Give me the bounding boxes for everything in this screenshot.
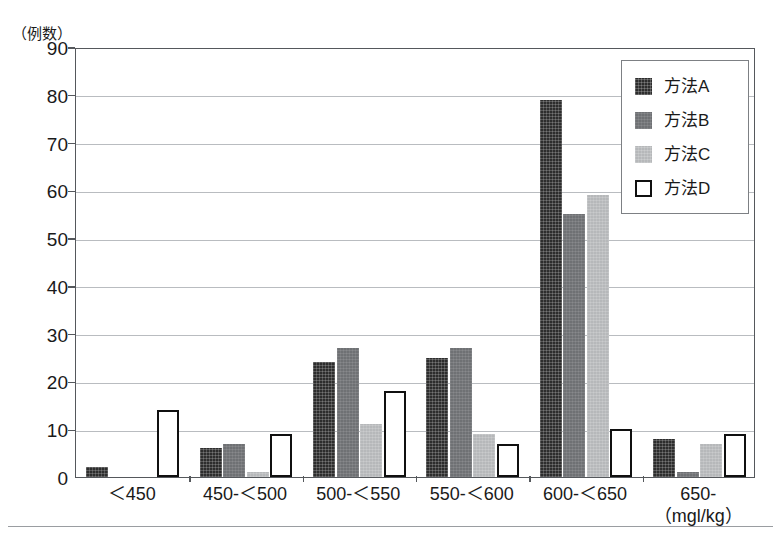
y-axis-tick-label: 80 [8,87,68,106]
x-axis-category-label: 650- [642,484,755,505]
y-axis-tick-mark [68,382,75,383]
y-axis-tick-label: 60 [8,182,68,201]
y-axis-tick-label: 40 [8,278,68,297]
x-axis-category-label: 450-＜500 [188,484,301,505]
bar-方法D [270,434,292,477]
bar-group [189,49,302,477]
bar-方法B [563,214,585,477]
legend-item-label: 方法D [664,180,710,197]
y-axis-tick-mark [68,47,75,48]
legend-item-label: 方法C [664,146,710,163]
bar-group [76,49,189,477]
y-axis-tick-label: 70 [8,135,68,154]
bar-方法C [700,444,722,477]
y-axis-tick-mark [68,95,75,96]
y-axis-tick-label: 0 [8,469,68,488]
bar-方法B [677,472,699,477]
x-axis-category-label: ＜450 [75,484,188,505]
bar-方法D [497,444,519,477]
bottom-divider-rule [8,526,773,527]
bar-方法A [86,467,108,477]
x-axis-tick-mark [529,476,530,482]
bar-方法C [247,472,269,477]
legend-item-label: 方法B [664,112,709,129]
bar-chart-figure: （例数） 0102030405060708090 ＜450450-＜500500… [0,0,781,541]
legend-item-方法B: 方法B [622,103,748,137]
bar-方法B [223,444,245,477]
y-axis-tick-label: 50 [8,230,68,249]
bar-方法A [653,439,675,477]
bar-group [303,49,416,477]
y-axis-tick-mark [68,238,75,239]
bar-方法C [473,434,495,477]
y-axis-tick-mark [68,143,75,144]
bar-方法C [360,424,382,477]
y-axis-tick-mark [68,334,75,335]
bar-方法D [384,391,406,477]
y-axis-tick-label: 20 [8,373,68,392]
y-axis-tick-mark [68,286,75,287]
dark-crosshatch-swatch [635,78,652,95]
legend-item-方法C: 方法C [622,137,748,171]
legend-item-label: 方法A [664,78,709,95]
y-axis-tick-label: 30 [8,326,68,345]
x-axis-tick-mark [643,476,644,482]
x-axis-category-label: 550-＜600 [415,484,528,505]
bar-方法D [610,429,632,477]
x-axis-unit-caption: （mgl/kg） [642,506,755,527]
bar-方法C [587,195,609,477]
legend-item-方法D: 方法D [622,171,748,205]
bar-方法A [426,358,448,477]
legend-item-方法A: 方法A [622,69,748,103]
bar-方法A [200,448,222,477]
y-axis-tick-label: 10 [8,421,68,440]
light-gray-swatch [635,146,652,163]
x-axis-category-label: 500-＜550 [302,484,415,505]
white-outlined-swatch [635,180,652,197]
x-axis-tick-mark [189,476,190,482]
bar-方法A [540,100,562,477]
y-axis-tick-mark [68,430,75,431]
bar-group [416,49,529,477]
x-axis-tick-mark [303,476,304,482]
bar-方法B [450,348,472,477]
x-axis-category-label: 600-＜650 [528,484,641,505]
bar-方法B [337,348,359,477]
y-axis-tick-mark [68,191,75,192]
bar-方法A [313,362,335,477]
bar-方法D [724,434,746,477]
bar-方法D [157,410,179,477]
y-axis-tick-label: 90 [8,39,68,58]
chart-legend: 方法A方法B方法C方法D [621,60,749,214]
medium-gray-swatch [635,112,652,129]
x-axis-tick-mark [416,476,417,482]
